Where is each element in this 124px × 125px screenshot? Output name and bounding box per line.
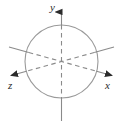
x-axis-back-solid bbox=[9, 47, 29, 53]
z-axis-forward-solid bbox=[11, 71, 27, 75]
x-axis-interior-dashed bbox=[29, 53, 97, 72]
axes-diagram bbox=[0, 0, 124, 125]
z-axis-back-solid bbox=[94, 47, 114, 53]
y-axis-label: y bbox=[50, 2, 55, 13]
z-axis-label: z bbox=[8, 80, 12, 91]
z-axis-interior-dashed bbox=[27, 53, 95, 72]
figure-root: y x z bbox=[0, 0, 124, 125]
x-axis-label: x bbox=[105, 80, 110, 91]
x-axis-forward-solid bbox=[97, 71, 113, 75]
